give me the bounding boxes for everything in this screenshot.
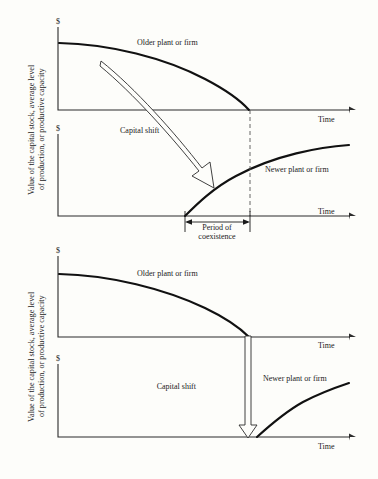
bottom-figure-y-axis-label: Value of the capital stock, average leve…: [27, 291, 46, 422]
older-plant-curve-label: Older plant or firm: [137, 38, 198, 47]
bottom-figure: Value of the capital stock, average leve…: [27, 246, 356, 451]
coexistence-label-line1: Period of: [202, 223, 232, 232]
x-axis-arrowhead: [349, 107, 356, 114]
x-axis-time-label: Time: [318, 115, 335, 124]
y-axis-label-line1: Value of the capital stock, average leve…: [27, 291, 36, 422]
y-axis-label-line2: of production, or productive capacity: [37, 294, 46, 417]
capital-shift-arrow: [239, 336, 257, 438]
older-plant-curve: [59, 274, 249, 337]
top-figure-y-axis-label: Value of the capital stock, average leve…: [27, 64, 46, 195]
capital-shift-label: Capital shift: [120, 126, 160, 135]
y-axis-dollar-symbol: $: [56, 17, 60, 26]
x-axis-time-label: Time: [318, 442, 335, 451]
y-axis-dollar-symbol: $: [56, 124, 60, 133]
x-axis-arrowhead: [349, 334, 356, 341]
x-axis-arrowhead: [349, 434, 356, 441]
axes-upper: [58, 27, 350, 110]
capital-shift-arrow-shape: [100, 61, 214, 188]
x-axis-time-label: Time: [318, 207, 335, 216]
capital-shift-arrow: [100, 61, 214, 188]
y-axis-label-line2: of production, or productive capacity: [37, 67, 46, 190]
x-axis-time-label: Time: [318, 341, 335, 350]
y-axis-dollar-symbol: $: [56, 354, 60, 363]
older-plant-curve-label: Older plant or firm: [137, 269, 198, 278]
bottom-figure-lower-panel: $ Time Newer plant or firm: [56, 354, 356, 451]
bracket-arrowhead-right: [243, 219, 250, 225]
newer-plant-curve: [257, 383, 349, 437]
axes-upper: [58, 256, 350, 337]
capital-shift-arrow-shape: [239, 336, 257, 438]
y-axis-label-line1: Value of the capital stock, average leve…: [27, 64, 36, 195]
bottom-figure-upper-panel: $ Time Older plant or firm: [56, 246, 356, 350]
top-figure-upper-panel: $ Time Older plant or firm: [56, 17, 356, 124]
x-axis-arrowhead: [349, 213, 356, 220]
older-plant-curve: [59, 43, 249, 110]
newer-plant-curve-label: Newer plant or firm: [263, 374, 328, 383]
capital-shift-label: Capital shift: [157, 382, 197, 391]
newer-plant-curve-label: Newer plant or firm: [265, 165, 330, 174]
y-axis-dollar-symbol: $: [56, 246, 60, 255]
coexistence-label-line2: coexistence: [198, 232, 236, 241]
top-figure: Value of the capital stock, average leve…: [27, 17, 356, 241]
figure-page: Value of the capital stock, average leve…: [0, 0, 378, 479]
bracket-arrowhead-left: [185, 219, 192, 225]
